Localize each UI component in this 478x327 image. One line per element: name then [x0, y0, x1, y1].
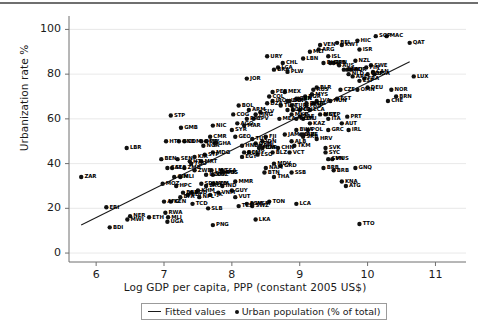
- data-point: [104, 205, 108, 209]
- data-point-label: BOL: [247, 150, 259, 155]
- data-point: [294, 202, 298, 206]
- data-point: [253, 217, 257, 221]
- data-point: [277, 117, 281, 121]
- data-point: [108, 225, 112, 229]
- data-point-label: SEN: [181, 156, 193, 161]
- chart-legend: Fitted values Urban population (% of tot…: [141, 303, 387, 320]
- data-point-label: ZAF: [303, 114, 314, 119]
- data-point: [159, 157, 163, 161]
- data-point: [162, 199, 166, 203]
- data-point-label: LBN: [306, 56, 318, 61]
- data-point: [272, 67, 276, 71]
- data-point-label: PNG: [216, 222, 229, 227]
- data-point-label: VUT: [238, 194, 250, 199]
- data-point-label: HPC: [179, 183, 191, 188]
- data-point: [236, 103, 240, 107]
- data-point-label: GUY: [235, 188, 247, 193]
- data-point-label: BGD: [194, 190, 207, 195]
- data-point-label: HND: [245, 143, 258, 148]
- data-point-label: AUT: [345, 121, 357, 126]
- data-point: [357, 79, 361, 83]
- data-point-label: GMB: [184, 125, 198, 130]
- data-point-label: FRA: [367, 76, 379, 81]
- data-point: [326, 117, 330, 121]
- x-tick-label: 10: [356, 268, 380, 281]
- data-point-label: NOR: [395, 87, 408, 92]
- data-point-label: DMA: [310, 101, 324, 106]
- data-point: [236, 204, 240, 208]
- data-point: [326, 157, 330, 161]
- data-point-label: COG: [236, 112, 249, 117]
- data-point-label: TLS: [242, 203, 253, 208]
- data-point-label: MMR: [238, 179, 253, 184]
- data-point-label: NZL: [359, 58, 371, 63]
- data-point: [79, 175, 83, 179]
- legend-item-fitted-values: Fitted values: [148, 306, 226, 317]
- data-point-label: AZE: [306, 132, 317, 137]
- data-point-label: MNE: [323, 112, 336, 117]
- data-point-label: GEO: [238, 134, 250, 139]
- data-point: [265, 101, 269, 105]
- data-point-label: VNM: [221, 190, 235, 195]
- data-point-label: ECA: [313, 107, 325, 112]
- data-point-label: LBR: [130, 145, 141, 150]
- data-point: [386, 99, 390, 103]
- data-point-label: TTO: [363, 221, 375, 226]
- data-point-label: LCA: [300, 201, 311, 206]
- data-point-label: HUN: [333, 98, 346, 103]
- data-point-label: MOZ: [166, 181, 180, 186]
- data-point-label: TGO: [194, 161, 206, 166]
- data-point-label: BLR: [320, 85, 331, 90]
- data-point-label: TCD: [196, 201, 208, 206]
- data-point-label: WSM: [255, 201, 270, 206]
- data-point: [211, 123, 215, 127]
- data-point: [272, 175, 276, 179]
- data-point: [308, 50, 312, 54]
- data-point-label: SYR: [235, 127, 247, 132]
- x-tick-label: 7: [152, 268, 176, 281]
- data-point: [321, 166, 325, 170]
- data-point-label: COM: [188, 139, 202, 144]
- data-point: [323, 146, 327, 150]
- data-point-label: NIC: [216, 123, 226, 128]
- data-point: [147, 215, 151, 219]
- data-point-label: ZAR: [84, 174, 96, 179]
- data-point-label: ATG: [349, 183, 361, 188]
- data-point-label: THA: [277, 174, 289, 179]
- data-point-label: ISL: [331, 54, 340, 59]
- data-point-label: PLW: [291, 69, 304, 74]
- data-point-label: JAM: [288, 132, 299, 137]
- data-point-label: TKM: [298, 143, 311, 148]
- data-point: [357, 47, 361, 51]
- data-point-label: EAP: [266, 145, 278, 150]
- data-point: [345, 114, 349, 118]
- data-point: [172, 175, 176, 179]
- data-point: [308, 121, 312, 125]
- data-point-label: MUS: [336, 156, 349, 161]
- data-point: [267, 94, 271, 98]
- data-point: [287, 150, 291, 154]
- data-point: [326, 128, 330, 132]
- data-point: [201, 144, 205, 148]
- data-point-label: LCA: [281, 65, 292, 70]
- data-point-label: GRD: [284, 163, 297, 168]
- legend-dot-swatch: [235, 310, 239, 314]
- data-point: [235, 121, 239, 125]
- data-point-label: GAB: [333, 60, 345, 65]
- data-point-label: ISR: [363, 47, 373, 52]
- data-point: [353, 166, 357, 170]
- data-point-label: HRV: [320, 136, 333, 141]
- data-point: [206, 206, 210, 210]
- data-point-label: UGA: [171, 219, 184, 224]
- data-point-label: STP: [174, 113, 185, 118]
- data-point: [407, 41, 411, 45]
- data-point-label: MLI: [183, 174, 194, 179]
- data-point-label: BLZ: [276, 150, 287, 155]
- data-point-label: CZE: [344, 87, 355, 92]
- legend-label-urban-population: Urban population (% of total): [242, 306, 381, 317]
- data-point: [318, 112, 322, 116]
- data-point: [190, 202, 194, 206]
- data-point-label: GHA: [218, 141, 231, 146]
- y-tick-label: 0: [27, 246, 61, 259]
- data-point-label: VEN: [323, 42, 335, 47]
